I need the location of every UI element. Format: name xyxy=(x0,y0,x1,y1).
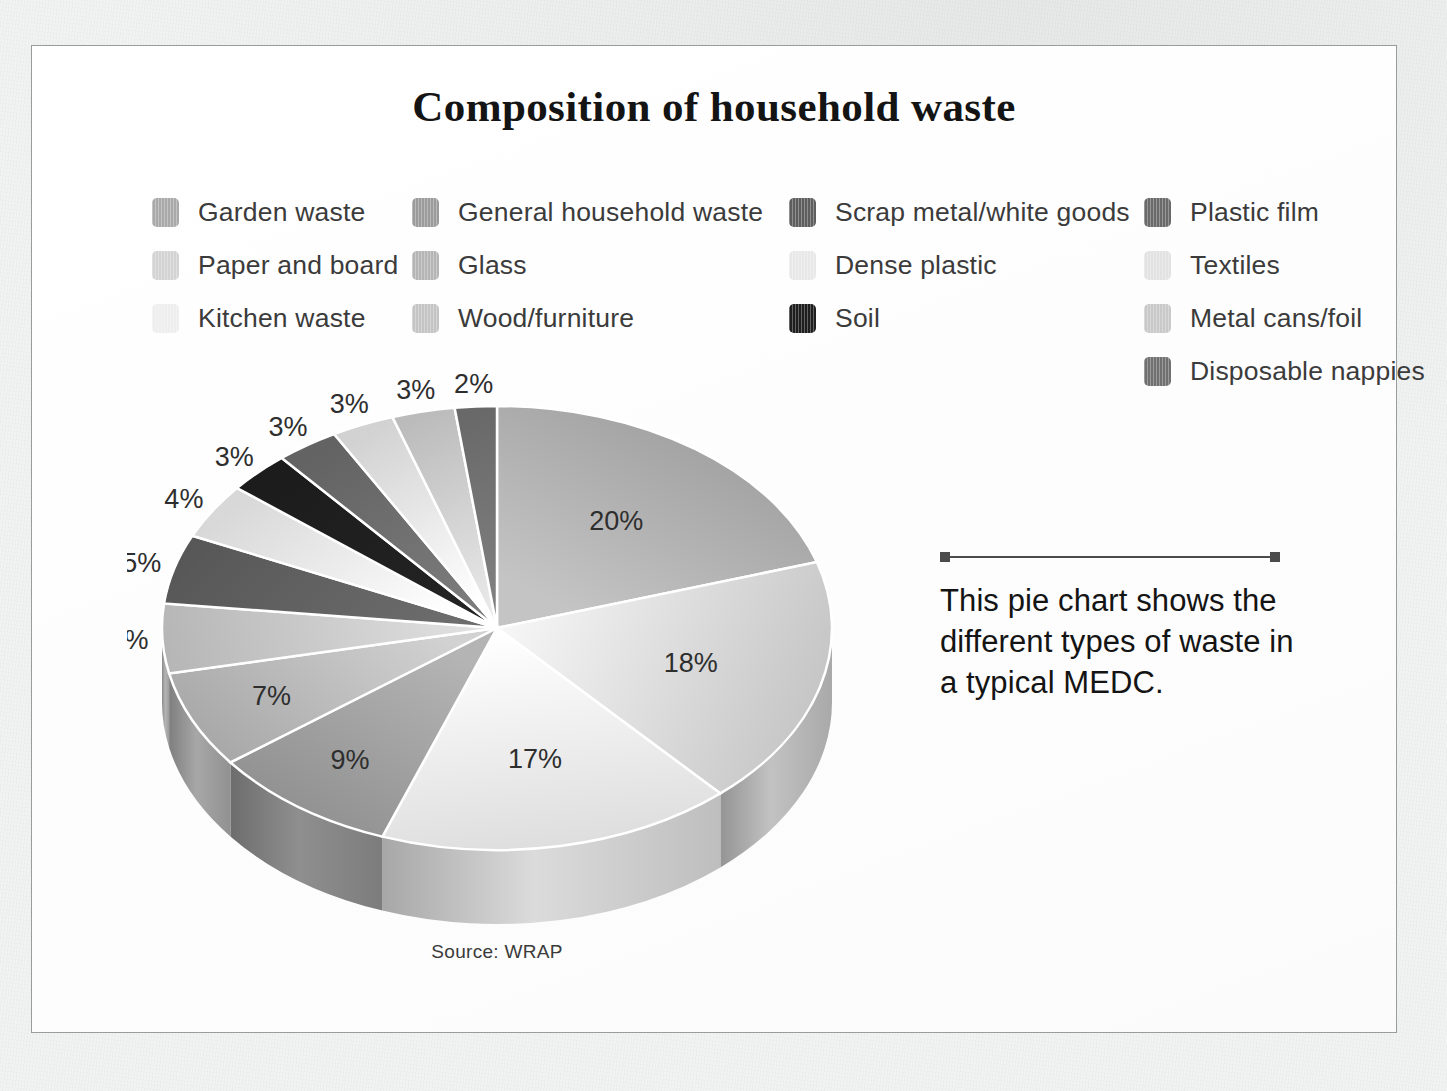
pie-slice-label: 5% xyxy=(127,548,161,578)
legend-item-label: Paper and board xyxy=(198,250,398,281)
pie-slice-label: 2% xyxy=(454,369,493,399)
legend-swatch-icon xyxy=(152,198,179,227)
legend-item-label: Plastic film xyxy=(1190,197,1319,228)
legend-item[interactable]: Soil xyxy=(789,292,1130,345)
legend-item[interactable]: Metal cans/foil xyxy=(1144,292,1425,345)
page-title: Composition of household waste xyxy=(32,82,1396,131)
legend-swatch-icon xyxy=(152,304,179,333)
pie-slice-label: 20% xyxy=(589,506,643,536)
pie-slice-label: 3% xyxy=(330,389,369,419)
legend-swatch-icon xyxy=(789,198,816,227)
legend-item-label: Garden waste xyxy=(198,197,365,228)
legend-swatch-icon xyxy=(412,304,439,333)
legend-item[interactable]: Dense plastic xyxy=(789,239,1130,292)
legend-item[interactable]: Plastic film xyxy=(1144,186,1425,239)
legend-item[interactable]: General household waste xyxy=(412,186,763,239)
legend-column-2: General household wasteGlassWood/furnitu… xyxy=(412,186,763,345)
legend-item-label: Disposable nappies xyxy=(1190,356,1425,387)
legend-item-label: Soil xyxy=(835,303,880,334)
legend-item[interactable]: Kitchen waste xyxy=(152,292,398,345)
page-frame: Composition of household waste Garden wa… xyxy=(31,45,1397,1033)
legend-item[interactable]: Garden waste xyxy=(152,186,398,239)
pie-slice-label: 3% xyxy=(269,412,308,442)
legend-item-label: Textiles xyxy=(1190,250,1280,281)
legend-swatch-icon xyxy=(412,198,439,227)
legend-swatch-icon xyxy=(789,251,816,280)
legend-column-3: Scrap metal/white goodsDense plasticSoil xyxy=(789,186,1130,345)
pie-slice-label: 17% xyxy=(508,744,562,774)
legend-item-label: Glass xyxy=(458,250,527,281)
pie-slice-label: 3% xyxy=(215,442,254,472)
legend-column-1: Garden wastePaper and boardKitchen waste xyxy=(152,186,398,345)
pie-slice-label: 4% xyxy=(164,484,203,514)
pie-slice-label: 7% xyxy=(252,681,291,711)
pie-chart: 20%18%17%9%7%5%5%4%3%3%3%3%2% Source: WR… xyxy=(127,366,867,966)
legend-item-label: Metal cans/foil xyxy=(1190,303,1362,334)
legend-item-label: Wood/furniture xyxy=(458,303,634,334)
pie-slice-label: 18% xyxy=(664,648,718,678)
legend-item[interactable]: Scrap metal/white goods xyxy=(789,186,1130,239)
legend-swatch-icon xyxy=(1144,198,1171,227)
legend-swatch-icon xyxy=(1144,304,1171,333)
pie-slice-label: 5% xyxy=(127,625,148,655)
annotation-text: This pie chart shows the different types… xyxy=(940,580,1300,704)
legend-item[interactable]: Disposable nappies xyxy=(1144,345,1425,398)
legend-item[interactable]: Textiles xyxy=(1144,239,1425,292)
legend-column-4: Plastic filmTextilesMetal cans/foilDispo… xyxy=(1144,186,1425,398)
rule-cap-right xyxy=(1270,552,1280,562)
rule-line xyxy=(944,556,1276,558)
legend-item[interactable]: Wood/furniture xyxy=(412,292,763,345)
pie-slice-label: 9% xyxy=(331,745,370,775)
legend-item-label: Kitchen waste xyxy=(198,303,366,334)
annotation-block: This pie chart shows the different types… xyxy=(940,551,1340,704)
pie-top-faces xyxy=(162,406,832,850)
annotation-rule xyxy=(940,551,1280,563)
legend-item[interactable]: Glass xyxy=(412,239,763,292)
pie-slice-label: 3% xyxy=(396,375,435,405)
legend-item-label: Dense plastic xyxy=(835,250,997,281)
legend-swatch-icon xyxy=(1144,251,1171,280)
source-note: Source: WRAP xyxy=(127,941,867,963)
legend-item-label: General household waste xyxy=(458,197,763,228)
pie-chart-svg: 20%18%17%9%7%5%5%4%3%3%3%3%2% xyxy=(127,366,867,966)
legend-swatch-icon xyxy=(1144,357,1171,386)
legend-swatch-icon xyxy=(789,304,816,333)
legend-item-label: Scrap metal/white goods xyxy=(835,197,1130,228)
legend-swatch-icon xyxy=(152,251,179,280)
legend-item[interactable]: Paper and board xyxy=(152,239,398,292)
legend-swatch-icon xyxy=(412,251,439,280)
